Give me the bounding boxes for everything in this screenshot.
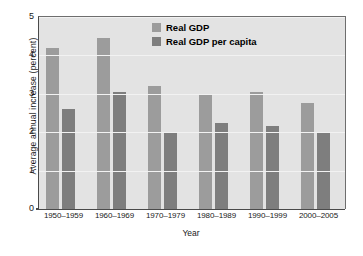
bar [113,92,127,209]
x-axis-tick-label: 1970–1979 [140,211,191,220]
y-axis-tick-labels: 012345 [20,16,34,208]
legend-swatch-icon [152,37,161,46]
x-axis-tick-label: 1980–1989 [191,211,242,220]
bar [301,103,315,209]
x-axis-tick-label: 1950–1959 [38,211,89,220]
legend-swatch-icon [152,23,161,32]
bar-group [294,17,345,209]
legend-entry: Real GDP per capita [152,36,257,47]
bar [97,38,111,209]
bar [317,132,331,209]
legend: Real GDPReal GDP per capita [152,22,257,50]
bar-chart: Average annual increase (percent) 012345… [0,0,363,256]
bar [46,48,60,209]
x-axis-title: Year [38,228,344,238]
bar [266,126,280,209]
bar-group [39,17,90,209]
bar [62,109,76,209]
x-axis-tick-label: 1990–1999 [242,211,293,220]
y-axis-tick-label: 5 [20,12,34,21]
x-axis-tick-labels: 1950–19591960–19691970–19791980–19891990… [38,211,344,220]
bar [199,94,213,209]
y-axis-tick-label: 2 [20,127,34,136]
y-axis-tick-label: 4 [20,50,34,59]
x-axis-tick-label: 2000–2005 [293,211,344,220]
bar [215,123,229,209]
legend-label: Real GDP per capita [166,36,257,47]
y-axis-tick-label: 3 [20,88,34,97]
bar [250,92,264,209]
bar-group [90,17,141,209]
bar [148,86,162,209]
y-axis-tick-label: 0 [20,204,34,213]
legend-entry: Real GDP [152,22,257,33]
bar [164,132,178,209]
y-axis-tick-label: 1 [20,165,34,174]
legend-label: Real GDP [166,22,209,33]
x-axis-tick-label: 1960–1969 [89,211,140,220]
